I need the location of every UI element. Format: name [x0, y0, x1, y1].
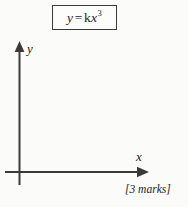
- x-axis-arrow-icon: [137, 167, 149, 177]
- y-axis-label: y: [27, 42, 33, 55]
- x-axis-label: x: [136, 150, 142, 163]
- marks-note: [3 marks]: [125, 184, 171, 196]
- coordinate-axes: [0, 0, 188, 207]
- exam-question-figure: y=kx3 y x [3 marks]: [0, 0, 188, 207]
- y-axis-arrow-icon: [15, 41, 25, 52]
